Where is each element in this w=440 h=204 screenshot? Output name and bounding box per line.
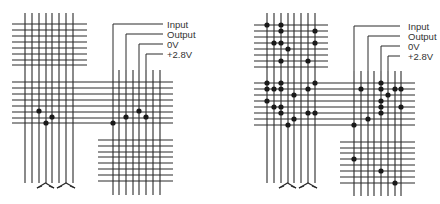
connection-dot [278,22,283,27]
crossbar-diagram-unprogrammed: InputOutput0V+2.8V [12,13,196,195]
connection-dot [123,114,128,119]
terminal-label-28v: +2.8V [408,51,434,62]
connection-dot [43,120,48,125]
crossbar-diagrams: InputOutput0V+2.8V InputOutput0V+2.8V [0,0,440,204]
connection-dot [278,86,283,91]
connection-dot [278,40,283,45]
connection-dot [305,86,310,91]
connection-dot [312,110,317,115]
connection-dot [305,110,310,115]
connection-dot [378,86,383,91]
connection-dot [398,86,403,91]
connection-dot [264,98,269,103]
connection-dot [136,108,141,113]
connection-dot [312,40,317,45]
connection-dot [291,92,296,97]
terminal-lead-line [381,46,400,71]
terminal-lead-line [113,24,163,70]
connection-dot [278,80,283,85]
connection-dot [392,180,397,185]
connection-dot [378,80,383,85]
connection-dot [312,80,317,85]
terminal-lead-line [354,26,400,71]
connection-dot [278,58,283,63]
terminal-lead-line [368,36,400,71]
terminal-lead-line [388,56,400,71]
connection-dot [264,80,269,85]
connection-dot [271,86,276,91]
connection-dot [271,40,276,45]
connection-dot [278,104,283,109]
connection-dot [278,28,283,33]
transistor-symbol-icon [57,183,75,188]
connection-dot [271,104,276,109]
terminal-label-28v: +2.8V [167,49,193,60]
connection-dot [398,104,403,109]
connection-dot [110,120,115,125]
connection-dot [378,110,383,115]
terminal-lead-line [146,54,163,70]
transistor-symbol-icon [37,183,54,188]
connection-dot [278,110,283,115]
connection-dot [264,86,269,91]
connection-dot [351,156,356,161]
connection-dot [392,86,397,91]
connection-dot [358,86,363,91]
connection-dot [378,98,383,103]
connection-dot [378,104,383,109]
crossbar-diagram-programmed: InputOutput0V+2.8V [254,13,437,196]
connection-dot [143,114,148,119]
connection-dot [285,122,290,127]
connection-dot [305,58,310,63]
connection-dot [351,122,356,127]
transistor-symbol-icon [279,183,296,188]
connection-dot [264,22,269,27]
transistor-symbol-icon [299,183,317,188]
connection-dot [312,28,317,33]
connection-dot [365,116,370,121]
connection-dot [285,46,290,51]
connection-dot [291,116,296,121]
connection-dot [385,92,390,97]
connection-dot [36,108,41,113]
connection-dot [49,114,54,119]
terminal-lead-line [126,34,163,70]
terminal-lead-line [139,44,163,70]
connection-dot [378,168,383,173]
